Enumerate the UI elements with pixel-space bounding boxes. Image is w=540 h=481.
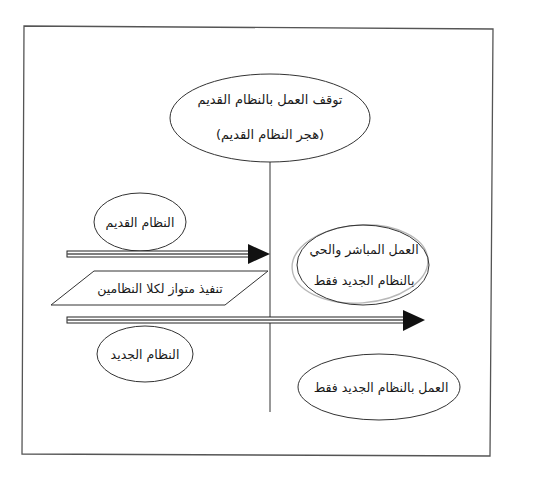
node-new-only: العمل بالنظام الجديد فقط	[298, 354, 460, 420]
node-stop-old-system: توقف العمل بالنظام القديم (هجر النظام ال…	[170, 74, 370, 162]
node-direct-live: العمل المباشر والحي بالنظام الجديد فقط	[289, 220, 430, 307]
old-system-label: النظام القديم	[106, 215, 175, 231]
direct-live-line2: بالنظام الجديد فقط	[314, 273, 415, 288]
stop-old-line1: توقف العمل بالنظام القديم	[198, 92, 343, 108]
diagram-canvas: توقف العمل بالنظام القديم (هجر النظام ال…	[0, 0, 540, 481]
parallel-run-label: تنفيذ متواز لكلا النظامين	[97, 281, 223, 297]
old-system-arrow	[67, 244, 270, 264]
arrow-head-icon	[248, 244, 270, 264]
new-system-label: النظام الجديد	[111, 347, 180, 362]
arrow-head-icon	[403, 310, 425, 331]
node-old-system: النظام القديم	[94, 193, 186, 251]
stop-old-line2: (هجر النظام القديم)	[216, 127, 324, 143]
node-parallel-run: تنفيذ متواز لكلا النظامين	[51, 271, 268, 305]
node-new-system: النظام الجديد	[97, 326, 193, 382]
new-only-label: العمل بالنظام الجديد فقط	[314, 380, 449, 395]
direct-live-line1: العمل المباشر والحي	[309, 242, 418, 258]
new-system-arrow	[67, 310, 425, 331]
